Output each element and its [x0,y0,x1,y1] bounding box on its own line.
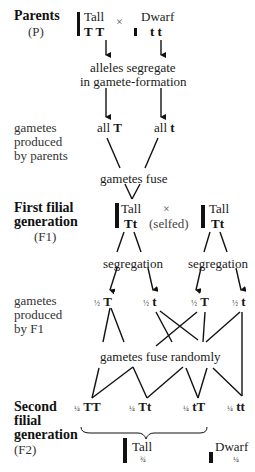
f1-gametes-label-2: produced [14,308,62,321]
allele: t [152,294,156,309]
f1-gametes-label-1: gametes [14,294,57,307]
f1-gamete: ½ T [191,295,209,308]
f1-left-phenotype: Tall [121,202,141,215]
genotype: tT [192,399,205,414]
parent-left-genotype: T T [84,25,104,38]
parents-title: Parents [14,9,60,23]
dwarf-plant-bar-icon [134,28,137,36]
fraction: ½ [143,299,149,308]
dwarf-plant-bar-icon [209,452,213,463]
random-fusion-label: gametes fuse randomly [100,350,221,363]
f2-title-line3: generation [14,428,78,442]
gamete-all-t: all t [154,121,175,134]
parent-gametes-label-3: by parents [14,149,68,162]
f2-tall-label: Tall [132,440,152,453]
gamete-allele: t [170,120,174,135]
tall-plant-bar-icon [115,203,119,228]
f2-dwarf-label: Dwarf [215,440,248,453]
f1-gamete: ½ t [232,295,246,308]
f1-gamete: ½ t [143,295,157,308]
genotype: Tt [138,399,151,414]
parent-gametes-label-1: gametes [14,121,57,134]
f1-right-genotype: Tt [211,217,224,230]
gamete-prefix: all [154,120,167,135]
tall-plant-bar-icon [201,205,205,228]
f1-gamete: ½ T [94,295,112,308]
f2-title-line1: Second [14,400,57,414]
f2-genotype: ¼ tT [183,400,205,413]
segregation-label-right: segregation [188,257,248,270]
fraction: ¼ [227,404,233,413]
allele: T [200,294,209,309]
fraction: ½ [94,299,100,308]
f1-gametes-label-3: by F1 [14,322,44,335]
f2-genotype: ¼ tt [227,400,245,413]
fraction: ¼ [74,404,80,413]
parents-abbr: (P) [28,25,44,38]
gamete-prefix: all [97,120,110,135]
f1-title-line2: generation [14,215,78,229]
f2-dwarf-fraction: ¼ [233,456,239,464]
f2-genotype: ¼ Tt [129,400,151,413]
genotype: TT [83,399,100,414]
f1-abbr: (F1) [34,230,56,243]
parent-left-phenotype: Tall [84,10,104,23]
parent-right-genotype: t t [150,25,162,38]
f2-genotype: ¼ TT [74,400,101,413]
cross-symbol: × [163,203,170,215]
fraction: ¼ [129,404,135,413]
segregate-note-line2: in gamete-formation [80,75,187,88]
genotype: tt [236,399,245,414]
gamete-all-T: all T [97,121,122,134]
segregation-label-left: segregation [103,257,163,270]
fraction: ½ [191,299,197,308]
tall-plant-bar-icon [123,438,127,463]
fraction: ½ [232,299,238,308]
f2-title-line2: filial [14,414,41,428]
selfed-note: (selfed) [149,217,189,230]
parent-gametes-label-2: produced [14,135,62,148]
f1-left-genotype: Tt [124,217,137,230]
allele: t [241,294,245,309]
segregate-note-line1: alleles segregate [90,61,176,74]
tall-plant-bar-icon [77,12,80,36]
gametes-fuse-label: gametes fuse [100,172,168,185]
f1-right-phenotype: Tall [209,202,229,215]
gamete-allele: T [113,120,122,135]
f2-abbr: (F2) [14,443,36,456]
f2-tall-fraction: ¾ [140,456,146,464]
f1-title-line1: First filial [14,201,74,215]
cross-symbol: × [116,16,123,28]
parent-right-phenotype: Dwarf [141,10,174,23]
fraction: ¼ [183,404,189,413]
allele: T [103,294,112,309]
